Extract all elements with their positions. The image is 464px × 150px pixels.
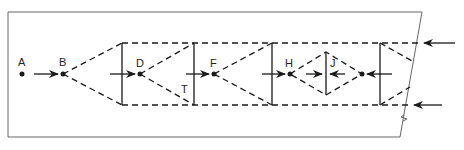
node-b xyxy=(61,72,66,77)
label-j: J xyxy=(330,57,336,69)
label-a: A xyxy=(18,56,26,68)
label-t: T xyxy=(181,83,188,95)
node-f xyxy=(212,72,217,77)
label-h: H xyxy=(285,57,293,69)
edge-f-bottom xyxy=(214,74,272,105)
edge-b-bottom xyxy=(63,74,122,105)
edge-right-bottom xyxy=(380,87,410,105)
edge-f-top xyxy=(214,43,272,74)
label-f: F xyxy=(210,57,217,69)
node-right xyxy=(360,72,365,77)
edge-b-top xyxy=(63,43,122,74)
node-a xyxy=(20,72,25,77)
flow-diagram: A B D F H J T xyxy=(0,0,464,150)
edge-d-top xyxy=(140,43,194,74)
node-h xyxy=(288,72,293,77)
label-b: B xyxy=(59,56,66,68)
edge-right-top xyxy=(380,43,414,62)
label-d: D xyxy=(136,57,144,69)
node-d xyxy=(138,72,143,77)
